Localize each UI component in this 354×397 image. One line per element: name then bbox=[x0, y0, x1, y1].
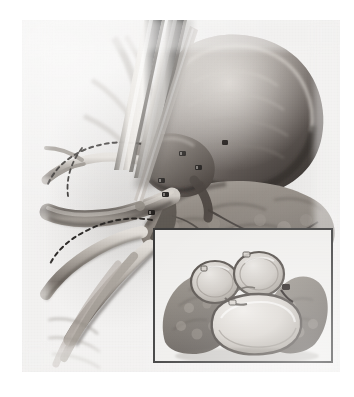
surgical-clip bbox=[148, 210, 155, 215]
large-lower-lumen bbox=[212, 294, 302, 354]
surgical-clip bbox=[158, 178, 165, 183]
surgical-clip bbox=[162, 192, 169, 197]
upper-left-lumen bbox=[191, 261, 239, 303]
cross-section-inset bbox=[153, 228, 333, 363]
surgical-clip bbox=[179, 151, 186, 156]
surgical-clip bbox=[222, 140, 228, 145]
inset-scene-artwork bbox=[155, 230, 331, 361]
main-illustration-plate bbox=[22, 20, 340, 372]
surgical-clip bbox=[195, 165, 202, 170]
figure-root: Surgical anatomy illustration with cross… bbox=[0, 0, 354, 397]
